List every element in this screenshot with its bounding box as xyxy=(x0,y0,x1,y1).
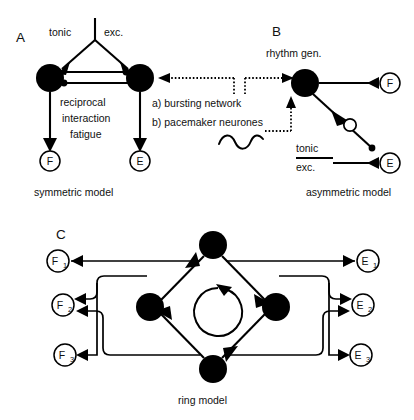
diagram-canvas: A tonic exc. reciprocal interaction fat xyxy=(0,0,414,420)
panel-c-arrowhead-f1 xyxy=(71,255,83,267)
panel-c-arrowhead-e2-a xyxy=(340,293,352,305)
panel-b-output-label-e: E xyxy=(386,157,393,169)
rotation-direction-icon xyxy=(194,288,242,336)
annotation-item-b: b) pacemaker neurones xyxy=(152,116,263,128)
panel-a-text-fatigue: fatigue xyxy=(70,128,102,140)
panel-a-node-left xyxy=(36,64,64,92)
panel-a-inhib-terminal-left xyxy=(61,80,68,87)
panel-a-input-branch-left xyxy=(62,40,95,69)
panel-b-caption: asymmetric model xyxy=(306,186,391,198)
panel-b-output-label-f: F xyxy=(387,77,393,89)
panel-a-output-arrow-f xyxy=(43,138,57,152)
panel-c-subscript-f3: 3 xyxy=(70,355,74,364)
panel-c-ring-arrowhead-bottom xyxy=(223,346,238,362)
oscillation-squiggle-icon xyxy=(219,135,263,148)
panel-b: B rhythm gen. F tonic exc. E asymmetric … xyxy=(266,24,400,198)
panel-b-tonic-label: tonic xyxy=(296,142,318,154)
panel-c: C xyxy=(47,227,379,406)
panel-a-text-interaction: interaction xyxy=(62,112,111,124)
panel-c-arrowhead-f2-b xyxy=(76,305,88,317)
panel-a-input-branch-right xyxy=(95,40,128,69)
panel-c-label-f1: F xyxy=(52,255,58,267)
panel-c-label-e3: E xyxy=(354,349,361,361)
panel-c-ring-top-to-right xyxy=(222,256,265,300)
panel-c-bus-right-to-e2 xyxy=(279,276,349,299)
panel-b-node-label: rhythm gen. xyxy=(266,47,321,59)
panel-b-arrowhead-e xyxy=(367,157,379,169)
panel-c-subscript-f2: 2 xyxy=(68,305,72,314)
panel-c-arrowhead-e3 xyxy=(338,349,350,361)
panel-c-bus-to-e3 xyxy=(329,283,340,355)
panel-b-open-synapse-icon xyxy=(344,119,356,131)
panel-c-bus-left-to-f2 xyxy=(77,276,147,299)
panel-c-label-f3: F xyxy=(59,349,65,361)
panel-c-subscript-e2: 2 xyxy=(368,305,372,314)
panel-c-subscript-e1: 1 xyxy=(373,261,377,270)
panel-b-letter: B xyxy=(272,24,281,39)
panel-c-ring-node-right xyxy=(262,293,290,321)
panel-c-letter: C xyxy=(56,227,66,242)
panel-c-ring-arrowhead-top xyxy=(185,252,200,268)
panel-c-ring-node-left xyxy=(136,293,164,321)
annotation-arrowhead-left xyxy=(158,73,170,83)
panel-c-caption: ring model xyxy=(178,394,227,406)
panel-b-node-rhythm-gen xyxy=(291,69,319,97)
figure-root: A tonic exc. reciprocal interaction fat xyxy=(0,0,414,420)
panel-a-output-label-e: E xyxy=(136,155,143,167)
middle-annotations: a) bursting network b) pacemaker neurone… xyxy=(152,73,296,149)
annotation-item-a: a) bursting network xyxy=(152,97,242,109)
panel-a-output-arrow-e xyxy=(133,138,147,152)
panel-a-letter: A xyxy=(16,30,25,45)
panel-a: A tonic exc. reciprocal interaction fat xyxy=(16,18,154,198)
panel-b-exc-label: exc. xyxy=(296,161,315,173)
panel-c-subscript-f1: 1 xyxy=(63,261,67,270)
panel-a-text-reciprocal: reciprocal xyxy=(60,96,106,108)
panel-c-ring-node-bottom xyxy=(199,355,227,383)
panel-c-arrowhead-e1 xyxy=(343,255,355,267)
annotation-elbow-arrowhead xyxy=(286,96,296,108)
panel-b-arrowhead-f xyxy=(367,77,379,89)
panel-b-terminal-dot xyxy=(369,145,376,152)
panel-a-inhib-terminal-right xyxy=(123,69,130,76)
panel-c-arrowhead-f2-a xyxy=(74,293,86,305)
panel-c-label-f2: F xyxy=(57,299,63,311)
panel-a-node-right xyxy=(126,64,154,92)
panel-c-subscript-e3: 3 xyxy=(366,355,370,364)
panel-c-ring-node-top xyxy=(199,231,227,259)
panel-a-caption: symmetric model xyxy=(34,186,113,198)
panel-c-ring-bottom-to-left xyxy=(161,314,204,358)
panel-c-arrowhead-e2-b xyxy=(338,305,350,317)
panel-c-label-e2: E xyxy=(356,299,363,311)
panel-a-output-label-f: F xyxy=(47,155,53,167)
panel-a-tonic-label: tonic xyxy=(49,26,71,38)
panel-c-label-e1: E xyxy=(361,255,368,267)
panel-a-exc-label: exc. xyxy=(104,26,123,38)
panel-c-bus-to-f3 xyxy=(86,283,97,355)
panel-c-arrowhead-f3 xyxy=(76,349,88,361)
